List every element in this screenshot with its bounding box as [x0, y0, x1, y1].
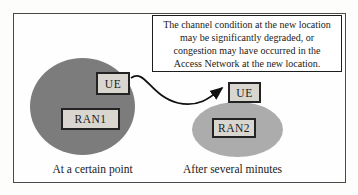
ue-box-before: UE [96, 72, 130, 95]
note-line-3: congestion may have occurred in the [153, 44, 341, 57]
note-line-1: The channel condition at the new locatio… [153, 18, 341, 31]
ue-box-after: UE [228, 82, 261, 103]
note-line-4: Access Network at the new location. [153, 57, 341, 70]
diagram-canvas: UE RAN1 UE RAN2 The channel condition at… [0, 0, 358, 195]
note-line-2: may be significantly degraded, or [153, 31, 341, 44]
ran2-box: RAN2 [212, 118, 256, 138]
caption-after: After several minutes [170, 163, 295, 175]
ran1-box: RAN1 [61, 108, 120, 130]
caption-before: At a certain point [30, 163, 155, 175]
note-box: The channel condition at the new locatio… [152, 15, 342, 72]
